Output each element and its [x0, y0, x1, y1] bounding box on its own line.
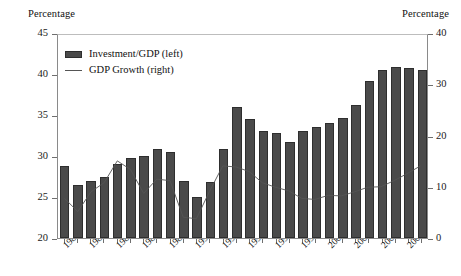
right-axis-tick-label: 10	[436, 182, 460, 193]
right-axis-tick-label: 0	[436, 233, 460, 244]
x-axis-tick-mark	[262, 239, 263, 243]
left-axis-title: Percentage	[28, 8, 75, 19]
x-axis-tick-mark	[103, 239, 104, 243]
right-axis-tick-mark	[428, 34, 433, 35]
x-axis-tick-mark	[156, 239, 157, 243]
legend-label-investment: Investment/GDP (left)	[89, 46, 183, 62]
x-axis-tick-mark	[236, 239, 237, 243]
x-axis-tick-mark	[209, 239, 210, 243]
left-axis-tick-label: 35	[0, 110, 48, 121]
x-axis-tick-mark	[342, 239, 343, 243]
x-axis-tick-mark	[77, 239, 78, 243]
right-axis-title: Percentage	[402, 8, 449, 19]
x-axis-tick-mark	[130, 239, 131, 243]
legend-item-growth: GDP Growth (right)	[65, 62, 183, 78]
right-axis-tick-label: 20	[436, 131, 460, 142]
legend-line-swatch-icon	[65, 70, 82, 71]
left-axis-tick-label: 20	[0, 233, 48, 244]
left-axis-tick-mark	[52, 239, 57, 240]
left-axis-tick-label: 25	[0, 192, 48, 203]
legend-bar-swatch-icon	[65, 51, 82, 58]
x-axis-tick-mark	[315, 239, 316, 243]
right-axis-tick-mark	[428, 137, 433, 138]
right-axis-tick-label: 30	[436, 79, 460, 90]
left-axis-tick-label: 45	[0, 28, 48, 39]
left-axis-tick-label: 40	[0, 69, 48, 80]
x-axis-tick-mark	[421, 239, 422, 243]
chart-container: Percentage Percentage 202530354045 01020…	[0, 0, 461, 276]
right-axis-tick-mark	[428, 85, 433, 86]
x-axis-tick-mark	[368, 239, 369, 243]
right-axis-tick-mark	[428, 239, 433, 240]
right-axis-tick-label: 40	[436, 28, 460, 39]
x-axis-tick-mark	[183, 239, 184, 243]
x-axis-tick-mark	[395, 239, 396, 243]
x-axis-tick-mark	[289, 239, 290, 243]
right-axis-tick-mark	[428, 188, 433, 189]
left-axis-tick-label: 30	[0, 151, 48, 162]
gdp-growth-line	[65, 161, 421, 219]
legend-label-growth: GDP Growth (right)	[89, 62, 174, 78]
legend-item-investment: Investment/GDP (left)	[65, 46, 183, 62]
chart-legend: Investment/GDP (left) GDP Growth (right)	[65, 46, 183, 78]
